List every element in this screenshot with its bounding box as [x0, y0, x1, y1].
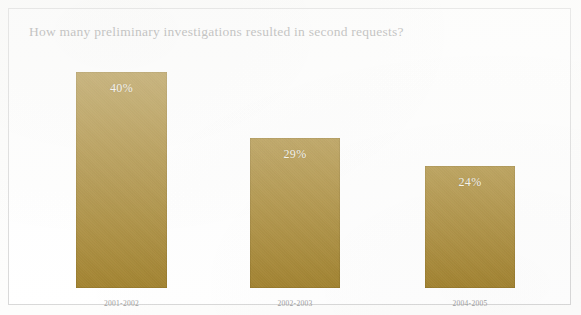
bar-value-label: 40%	[76, 81, 167, 96]
chart-title: How many preliminary investigations resu…	[29, 24, 404, 40]
category-label-2001-2002: 2001-2002	[54, 299, 189, 308]
bar-group-2001-2002: 40% 2001-2002	[76, 72, 167, 288]
bar-value-label: 29%	[250, 147, 340, 162]
bar-2002-2003: 29%	[250, 138, 340, 288]
bar-group-2004-2005: 24% 2004-2005	[425, 166, 515, 288]
bar-group-2002-2003: 29% 2002-2003	[250, 138, 340, 288]
bar-2004-2005: 24%	[425, 166, 515, 288]
category-label-2004-2005: 2004-2005	[403, 299, 537, 308]
chart-screenshot: How many preliminary investigations resu…	[0, 0, 581, 315]
bar-2001-2002: 40%	[76, 72, 167, 288]
plot-area: 40% 2001-2002 29% 2002-2003 24% 2004-200…	[0, 0, 581, 315]
bar-value-label: 24%	[425, 175, 515, 190]
category-label-2002-2003: 2002-2003	[228, 299, 362, 308]
